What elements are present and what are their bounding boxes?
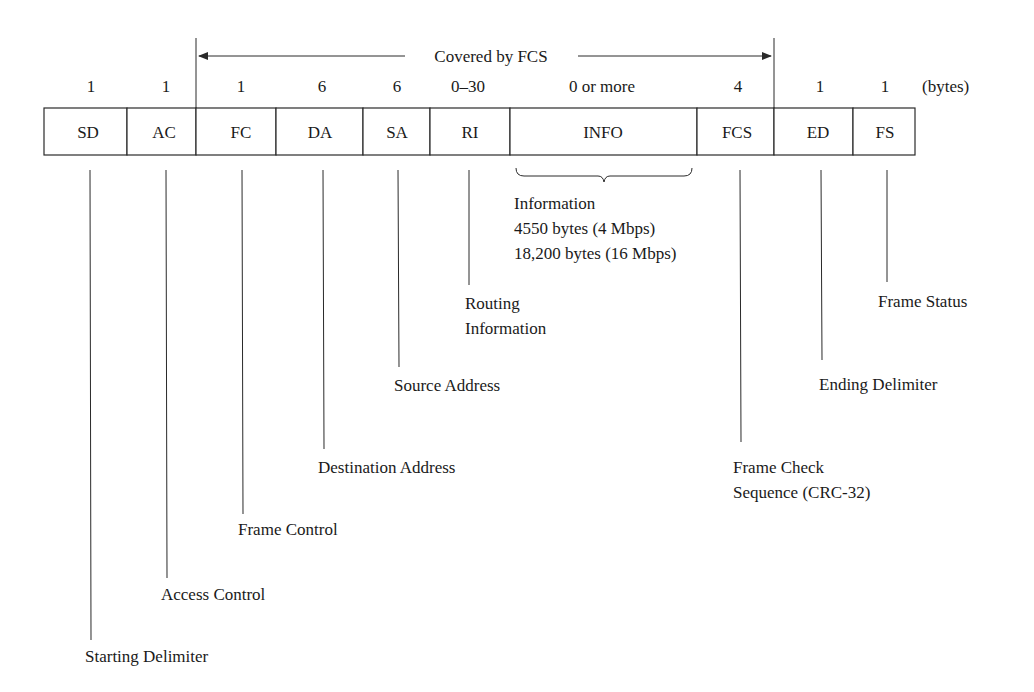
size-ac: 1: [162, 77, 171, 96]
size-fc: 1: [237, 77, 246, 96]
field-ri-label: RI: [462, 123, 479, 142]
leader-ac: [166, 170, 167, 578]
field-fcs-label: FCS: [722, 123, 752, 142]
desc-ac: Access Control: [161, 585, 266, 604]
size-fs: 1: [881, 77, 890, 96]
leader-fcs: [740, 170, 741, 442]
field-ed-label: ED: [807, 123, 830, 142]
size-ri: 0–30: [451, 77, 485, 96]
field-descriptions: Starting Delimiter Access Control Frame …: [85, 194, 967, 666]
field-fc-label: FC: [231, 123, 252, 142]
size-info: 0 or more: [569, 77, 635, 96]
size-ed: 1: [816, 77, 825, 96]
desc-da: Destination Address: [318, 458, 455, 477]
field-info-label: INFO: [583, 123, 623, 142]
leader-sd: [90, 170, 91, 640]
size-sd: 1: [87, 77, 96, 96]
info-brace-icon: [516, 168, 692, 182]
fcs-coverage-indicator: Covered by FCS: [196, 38, 774, 108]
field-da-label: DA: [308, 123, 333, 142]
field-fs-label: FS: [876, 123, 895, 142]
desc-ed: Ending Delimiter: [819, 375, 938, 394]
desc-fs: Frame Status: [878, 292, 967, 311]
leader-da: [323, 170, 324, 449]
field-ac-label: AC: [152, 123, 176, 142]
desc-info-4mbps: 4550 bytes (4 Mbps): [514, 219, 655, 238]
leader-fc: [242, 170, 243, 514]
leader-ed: [821, 170, 822, 360]
field-sd-label: SD: [77, 123, 99, 142]
size-fcs: 4: [734, 77, 743, 96]
desc-fcs-line1: Frame Check: [733, 458, 825, 477]
desc-sa: Source Address: [394, 376, 500, 395]
desc-fc: Frame Control: [238, 520, 338, 539]
token-ring-frame-diagram: Covered by FCS 1 1 1 6 6 0–30 0 or more …: [0, 0, 1034, 692]
desc-fcs-line2: Sequence (CRC-32): [733, 483, 870, 502]
frame-fields: SD AC FC DA SA RI INFO FCS ED FS: [44, 108, 915, 155]
desc-sd: Starting Delimiter: [85, 647, 209, 666]
size-sa: 6: [393, 77, 402, 96]
field-size-row: 1 1 1 6 6 0–30 0 or more 4 1 1 (bytes): [87, 77, 969, 96]
field-sa-label: SA: [386, 123, 408, 142]
desc-ri-line1: Routing: [465, 294, 520, 313]
size-da: 6: [318, 77, 327, 96]
desc-info-16mbps: 18,200 bytes (16 Mbps): [514, 244, 676, 263]
units-label: (bytes): [922, 77, 969, 96]
leader-sa: [398, 170, 399, 367]
leader-lines: [90, 170, 887, 640]
coverage-label: Covered by FCS: [434, 47, 547, 66]
desc-ri-line2: Information: [465, 319, 547, 338]
desc-info: Information: [514, 194, 596, 213]
